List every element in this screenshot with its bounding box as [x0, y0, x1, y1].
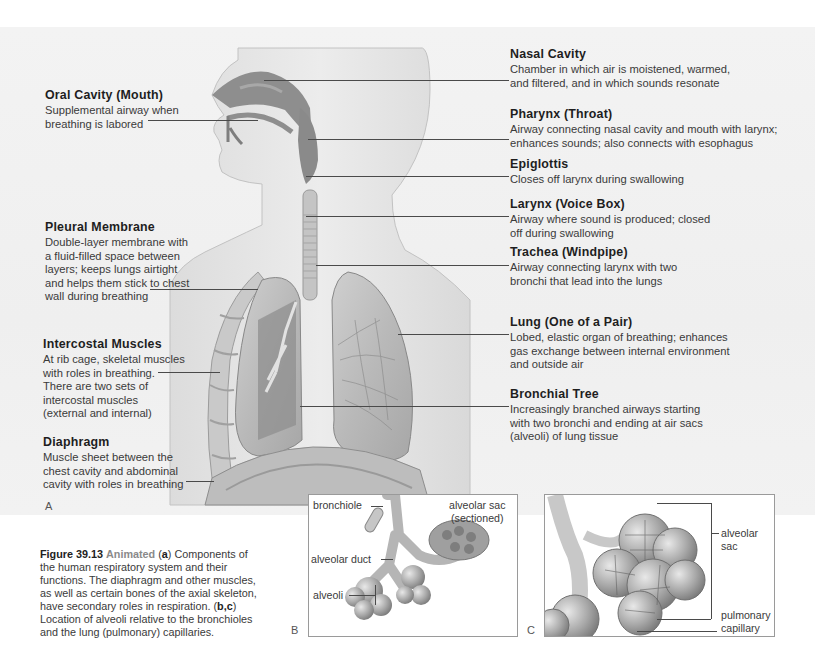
label-desc: Muscle sheet between the chest cavity an… [43, 451, 218, 491]
label-title: Diaphragm [43, 436, 218, 449]
label-desc: Lobed, elastic organ of breathing; enhan… [510, 331, 810, 371]
label-nasal-cavity: Nasal Cavity Chamber in which air is moi… [510, 48, 810, 90]
label-desc: Airway connecting nasal cavity and mouth… [510, 123, 815, 150]
label-pulmonary-capillary: pulmonary capillary [721, 609, 770, 634]
label-pleural-membrane: Pleural Membrane Double-layer membrane w… [45, 221, 215, 303]
label-desc: Chamber in which air is moistened, warme… [510, 63, 810, 90]
label-alveoli: alveoli [313, 589, 343, 602]
label-title: Pleural Membrane [45, 221, 215, 234]
label-title: Larynx (Voice Box) [510, 198, 810, 211]
leader-alveolar-sac-bracket [711, 503, 712, 619]
label-title: Oral Cavity (Mouth) [45, 89, 215, 102]
label-title: Trachea (Windpipe) [510, 246, 810, 259]
label-desc: At rib cage, skeletal muscles with roles… [43, 353, 213, 420]
label-title: Epiglottis [510, 158, 810, 171]
label-alveolar-sac-sectioned: alveolar sac (sectioned) [449, 499, 506, 524]
leader-larynx [306, 216, 509, 217]
panel-letter-a: A [45, 500, 52, 512]
label-alveolar-sac: alveolar sac [721, 527, 758, 552]
label-desc: Increasingly branched airways starting w… [510, 403, 810, 443]
leader-bronchiole [371, 506, 383, 507]
leader-bronchial-tree [300, 406, 509, 407]
label-title: Intercostal Muscles [43, 338, 213, 351]
label-desc: Closes off larynx during swallowing [510, 173, 810, 186]
leader-epiglottis [306, 176, 509, 177]
leader-pharynx [308, 139, 509, 140]
leader-lung [398, 334, 509, 335]
label-title: Bronchial Tree [510, 388, 810, 401]
figure-number: Figure 39.13 [40, 548, 103, 560]
panel-letter-c: C [527, 624, 535, 636]
label-alveolar-duct: alveolar duct [311, 553, 371, 566]
leader-alveoli [349, 595, 375, 596]
leader-trachea [316, 265, 509, 266]
animated-tag: Animated [106, 548, 155, 560]
label-title: Nasal Cavity [510, 48, 810, 61]
label-title: Lung (One of a Pair) [510, 316, 810, 329]
leader-pulmonary-capillary [637, 631, 717, 632]
label-diaphragm: Diaphragm Muscle sheet between the chest… [43, 436, 218, 492]
caption-bold: b,c [217, 600, 233, 612]
figure-caption: Figure 39.13 Animated (a) Components of … [40, 548, 265, 639]
label-desc: Supplemental airway when breathing is la… [45, 104, 215, 131]
leader-alveolar-sac-top [657, 503, 711, 504]
label-trachea: Trachea (Windpipe) Airway connecting lar… [510, 246, 810, 288]
inset-c-alveolar-sac: alveolar sac pulmonary capillary [544, 494, 775, 637]
leader-alveolar-duct [381, 559, 393, 560]
leader-nasal-cavity [264, 80, 509, 81]
inset-b-alveolar-duct: bronchiole alveolar sac (sectioned) alve… [308, 494, 518, 637]
label-desc: Airway connecting larynx with two bronch… [510, 261, 810, 288]
label-title: Pharynx (Throat) [510, 108, 815, 121]
trachea-shape [303, 190, 317, 300]
label-larynx: Larynx (Voice Box) Airway where sound is… [510, 198, 810, 240]
label-lung: Lung (One of a Pair) Lobed, elastic orga… [510, 316, 810, 372]
leader-alveolar-sac-bottom [657, 619, 711, 620]
leader-alveoli-bracket [375, 585, 376, 605]
label-intercostal-muscles: Intercostal Muscles At rib cage, skeleta… [43, 338, 213, 420]
panel-letter-b: B [291, 624, 298, 636]
label-oral-cavity: Oral Cavity (Mouth) Supplemental airway … [45, 89, 215, 131]
label-epiglottis: Epiglottis Closes off larynx during swal… [510, 158, 810, 187]
label-desc: Airway where sound is produced; closed o… [510, 213, 810, 240]
label-pharynx: Pharynx (Throat) Airway connecting nasal… [510, 108, 815, 150]
label-desc: Double-layer membrane with a fluid-fille… [45, 236, 215, 303]
label-bronchial-tree: Bronchial Tree Increasingly branched air… [510, 388, 810, 444]
leader-alveolar-sac [711, 533, 719, 534]
label-bronchiole: bronchiole [313, 499, 362, 512]
